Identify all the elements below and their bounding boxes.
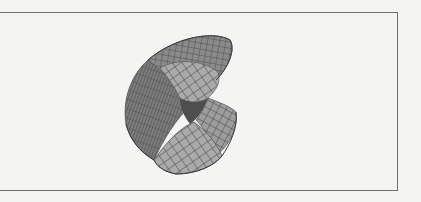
scanned-page	[0, 0, 421, 202]
surface-figure	[118, 28, 258, 178]
